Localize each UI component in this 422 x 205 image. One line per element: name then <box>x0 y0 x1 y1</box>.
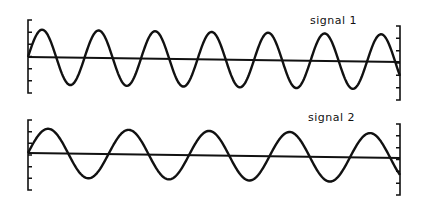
signal-2-label: signal 2 <box>308 111 355 124</box>
signal-1-plot: signal 1 <box>28 14 400 100</box>
signal-1-label: signal 1 <box>310 14 357 27</box>
signals-figure: signal 1 signal 2 <box>0 0 422 205</box>
signal-2-baseline <box>28 153 400 158</box>
signal-2-right-scale-bracket <box>396 124 400 195</box>
signal-2-left-scale-bracket <box>28 120 32 190</box>
signal-2-plot: signal 2 <box>28 111 400 195</box>
